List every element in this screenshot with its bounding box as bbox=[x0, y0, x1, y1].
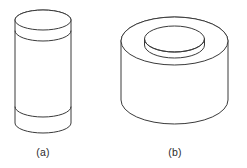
figure-drawing: (a) (b) bbox=[0, 0, 247, 168]
tall-cylinder-top-ellipse bbox=[15, 10, 71, 30]
panel-a-label: (a) bbox=[36, 146, 49, 158]
panel-b-label: (b) bbox=[168, 146, 181, 158]
figure-canvas: (a) (b) bbox=[0, 0, 247, 168]
panel-a-group: (a) bbox=[15, 10, 71, 158]
panel-b-group: (b) bbox=[121, 17, 228, 158]
